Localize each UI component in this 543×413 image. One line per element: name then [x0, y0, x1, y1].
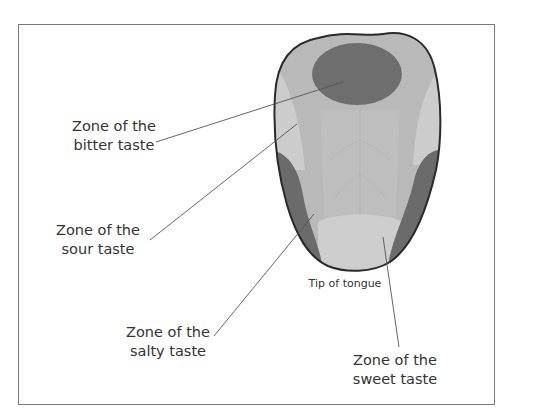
sour-label-line1: Zone of the [56, 221, 140, 240]
salty-label-line1: Zone of the [126, 323, 210, 342]
salty-zone-label: Zone of the salty taste [126, 323, 210, 361]
sour-zone-label: Zone of the sour taste [56, 221, 140, 259]
sour-leader-line [150, 124, 297, 240]
bitter-label-line2: bitter taste [72, 136, 156, 155]
sweet-zone-label: Zone of the sweet taste [353, 351, 437, 389]
tongue-diagram [0, 0, 543, 413]
bitter-label-line1: Zone of the [72, 117, 156, 136]
sweet-label-line1: Zone of the [353, 351, 437, 370]
bitter-zone-label: Zone of the bitter taste [72, 117, 156, 155]
tip-of-tongue-label: Tip of tongue [309, 277, 382, 290]
tongue-body [260, 25, 460, 285]
salty-label-line2: salty taste [126, 342, 210, 361]
sweet-label-line2: sweet taste [353, 370, 437, 389]
sour-label-line2: sour taste [56, 240, 140, 259]
salty-leader-line [214, 214, 314, 336]
